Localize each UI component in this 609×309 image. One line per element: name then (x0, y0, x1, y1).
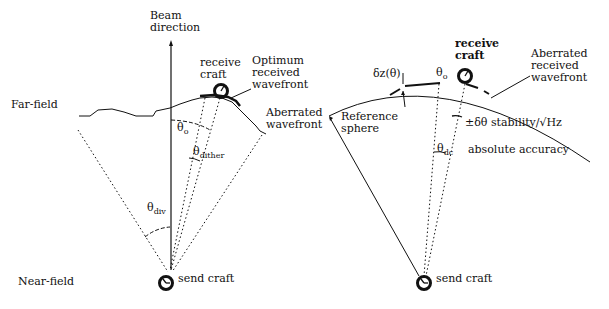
theta-dither-label: θdither (193, 146, 224, 162)
theta-o-label: θo (177, 122, 188, 138)
aberrated-received-wavefront-label: Aberrated received wavefront (531, 48, 588, 84)
aberrated-segment-1 (390, 89, 400, 95)
arw-line3: wavefront (531, 72, 588, 84)
receive-label-line2: craft (200, 69, 241, 81)
stability-arc (452, 116, 462, 117)
theta-dc-line (424, 84, 439, 276)
absolute-accuracy-label: absolute accuracy (468, 144, 569, 156)
ref-line2: sphere (341, 123, 398, 135)
send-craft-label-right: send craft (436, 273, 492, 285)
aberrated-wavefront-label: Aberrated wavefront (266, 107, 323, 131)
aberrated-leader-line (491, 76, 530, 98)
theta-div-sub: div (154, 207, 166, 216)
divergence-cone-left (78, 130, 168, 272)
theta-dither-symbol: θ (193, 145, 200, 158)
theta-dc-sub: dc (444, 148, 454, 157)
receive-craft-icon-right (459, 70, 472, 83)
aberrated-line2: wavefront (266, 119, 323, 131)
theta-o-right-symbol: θ (436, 66, 443, 79)
receive-craft-label: receive craft (200, 57, 241, 81)
reference-sphere-label: Reference sphere (341, 111, 398, 135)
optimum-leader-line (231, 89, 251, 98)
optimum-wavefront-label: Optimum received wavefront (252, 55, 308, 91)
beam-direction-arrow (169, 40, 173, 270)
receive-craft-label-right: receive craft (455, 38, 499, 62)
theta-div-symbol: θ (147, 201, 154, 214)
theta-dc-label: θdc (437, 143, 453, 159)
send-craft-icon (160, 277, 173, 290)
reference-sphere-radius (330, 118, 419, 276)
beam-direction-label: Beam direction (150, 10, 200, 34)
receive-right-line2: craft (455, 50, 499, 62)
far-field-label: Far-field (11, 99, 58, 111)
theta-o-label-right: θo (436, 67, 447, 83)
aberrated-segment-2 (405, 83, 440, 86)
theta-o-symbol: θ (177, 121, 184, 134)
theta-dither-sub: dither (200, 151, 225, 160)
theta-o-right-sub: o (443, 72, 448, 81)
near-field-label: Near-field (18, 276, 74, 288)
send-craft-icon-right (418, 277, 431, 290)
stability-label: ±δθ stability/√Hz (465, 117, 562, 129)
theta-div-label: θdiv (147, 202, 166, 218)
theta-o-sub: o (184, 127, 189, 136)
send-craft-label: send craft (178, 273, 234, 285)
delta-z-label: δz(θ) (373, 68, 401, 80)
theta-dc-symbol: θ (437, 142, 444, 155)
aberrated-segment-4 (484, 91, 489, 94)
aberrated-segment-3 (466, 84, 478, 88)
beam-label-line2: direction (150, 22, 200, 34)
theta-div-arc (145, 227, 170, 237)
optimum-line3: wavefront (252, 79, 308, 91)
